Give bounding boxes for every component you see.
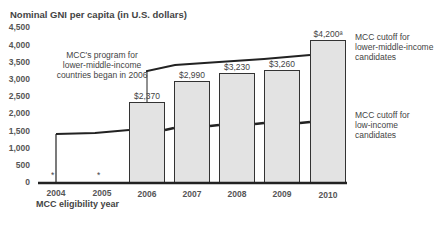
x-tick: 2004: [36, 188, 76, 198]
annotation-line: countries began in 2006: [52, 70, 152, 80]
x-tick: 2008: [217, 189, 257, 199]
legend-line: MCC cutoff for: [355, 110, 410, 120]
star-marker-2005: *: [97, 170, 100, 180]
x-tick: 2010: [308, 190, 348, 200]
bar-label-2010: $4,200ª: [303, 29, 353, 39]
legend-lower-middle-income: MCC cutoff for lower-middle-income candi…: [355, 32, 433, 62]
bar-label-2007: $2,990: [167, 70, 217, 80]
x-axis-label: MCC eligibility year: [36, 199, 119, 209]
bar-label-2006: $2,370: [122, 91, 172, 101]
legend-line: MCC cutoff for: [355, 32, 433, 42]
x-tick: 2006: [127, 189, 167, 199]
bar-label-2008: $3,230: [212, 62, 262, 72]
x-tick: 2009: [262, 189, 302, 199]
annotation-line: lower-middle-income: [52, 60, 152, 70]
program-start-annotation: MCC's program for lower-middle-income co…: [52, 50, 152, 80]
legend-line: candidates: [355, 130, 410, 140]
legend-low-income: MCC cutoff for low-income candidates: [355, 110, 410, 140]
legend-line: lower-middle-income: [355, 42, 433, 52]
bar-label-2009: $3,260: [257, 59, 307, 69]
x-tick: 2005: [82, 188, 122, 198]
legend-line: low-income: [355, 120, 410, 130]
annotation-line: MCC's program for: [52, 50, 152, 60]
star-marker-2004: *: [51, 170, 54, 180]
x-tick: 2007: [172, 189, 212, 199]
legend-line: candidates: [355, 52, 433, 62]
